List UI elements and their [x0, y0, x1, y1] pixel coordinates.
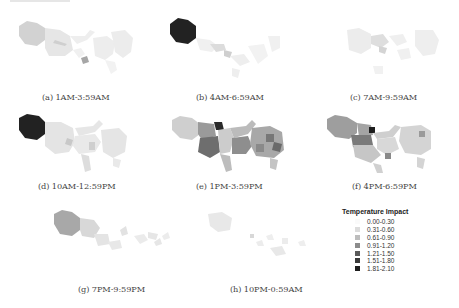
legend-item: 1.21-1.50: [354, 249, 454, 257]
map-d: [15, 112, 140, 174]
legend-item: 0.00-0.30: [354, 218, 454, 226]
legend-label: 1.51-1.80: [367, 257, 394, 264]
legend-label: 0.00-0.30: [367, 218, 394, 225]
caption-c: (c) 7AM-9:59AM: [350, 92, 417, 102]
legend-item: 1.81-2.10: [354, 265, 454, 273]
caption-g: (g) 7PM-9:59PM: [78, 284, 145, 294]
legend-item: 0.91-1.20: [354, 241, 454, 249]
cropped-top-edge: [10, 0, 70, 2]
map-g: [52, 208, 162, 260]
legend-item: 1.51-1.80: [354, 257, 454, 265]
legend-label: 1.81-2.10: [367, 265, 394, 272]
legend-swatch: [355, 266, 360, 271]
legend-swatch: [355, 258, 360, 263]
map-c: [343, 26, 453, 76]
legend-title: Temperature Impact: [342, 208, 454, 215]
legend-swatch: [355, 243, 360, 248]
map-a: [15, 18, 140, 78]
legend-swatch: [355, 227, 360, 232]
map-b: [168, 16, 293, 80]
legend-item: 0.31-0.60: [354, 226, 454, 234]
legend-swatch: [355, 219, 360, 224]
caption-a: (a) 1AM-3:59AM: [42, 92, 109, 102]
legend: Temperature Impact 0.00-0.30 0.31-0.60 0…: [354, 208, 454, 273]
legend-label: 0.31-0.60: [367, 226, 394, 233]
legend-label: 1.21-1.50: [367, 250, 394, 257]
legend-label: 0.91-1.20: [367, 242, 394, 249]
caption-f: (f) 4PM-6:59PM: [352, 181, 417, 191]
legend-swatch: [355, 251, 360, 256]
map-f: [325, 113, 450, 175]
map-h: [152, 208, 312, 260]
legend-label: 0.61-0.90: [367, 234, 394, 241]
caption-e: (e) 1PM-3:59PM: [196, 181, 263, 191]
legend-item: 0.61-0.90: [354, 234, 454, 242]
caption-d: (d) 10AM-12:59PM: [38, 181, 116, 191]
map-e: [170, 114, 295, 176]
caption-b: (b) 4AM-6:59AM: [196, 92, 264, 102]
caption-h: (h) 10PM-0:59AM: [230, 284, 303, 294]
legend-swatch: [355, 235, 360, 240]
